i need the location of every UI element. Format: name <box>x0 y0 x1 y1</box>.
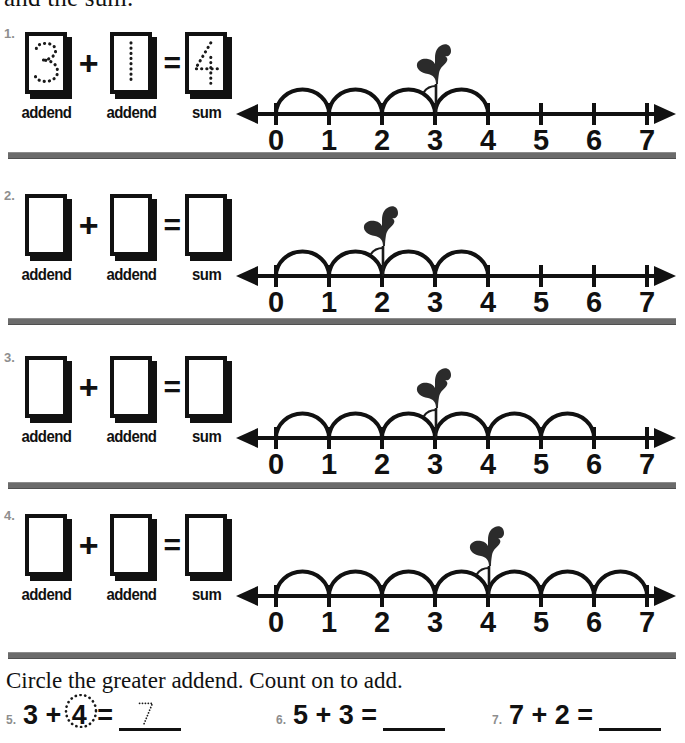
addend2-box[interactable] <box>110 514 152 576</box>
sum-cell: sum <box>185 514 227 605</box>
equals-sign: = <box>354 700 377 730</box>
sum-cell: sum <box>185 356 227 447</box>
hop-arc <box>382 414 435 438</box>
tick-label: 7 <box>639 448 655 480</box>
equals-sign: = <box>160 514 186 576</box>
hop-arc <box>435 572 488 596</box>
hop-arc <box>276 90 329 114</box>
problem-number: 2. <box>4 188 15 203</box>
tick-label: 2 <box>374 448 390 480</box>
sum-label: sum <box>192 265 221 285</box>
tick-label: 4 <box>480 286 496 318</box>
tick-label: 6 <box>586 286 602 318</box>
number-line-wrapper[interactable]: 01234567 <box>232 28 680 162</box>
sum-box[interactable] <box>185 32 227 94</box>
answer-blank[interactable] <box>383 709 445 731</box>
hop-arc <box>382 572 435 596</box>
number-line: 01234567 <box>232 510 680 640</box>
tick-label: 2 <box>374 606 390 638</box>
sum-cell: sum <box>185 194 227 285</box>
tick-label: 4 <box>480 448 496 480</box>
problem-number: 4. <box>4 508 15 523</box>
addend2-box[interactable] <box>110 356 152 418</box>
hop-arc <box>488 572 541 596</box>
addend2-label: addend <box>106 103 156 123</box>
left-addend: 5 <box>293 700 308 730</box>
number-line-wrapper[interactable]: 01234567 <box>232 352 680 486</box>
hop-arc <box>382 252 435 276</box>
addend1-label: addend <box>21 265 71 285</box>
equation-group: addend+addend=sum <box>18 32 227 123</box>
tick-label: 5 <box>533 448 549 480</box>
addend2-cell: addend <box>103 356 160 447</box>
addend1-cell: addend <box>18 194 75 285</box>
equation-group: addend+addend=sum <box>18 356 227 447</box>
expression: 5 + 3 = <box>293 700 445 731</box>
tick-label: 1 <box>321 448 337 480</box>
hop-arc <box>382 90 435 114</box>
addend1-cell: addend <box>18 32 75 123</box>
addend2-box[interactable] <box>110 194 152 256</box>
hop-arc <box>329 252 382 276</box>
problem-number: 1. <box>4 26 15 41</box>
tick-label: 4 <box>480 606 496 638</box>
addend1-box[interactable] <box>25 194 67 256</box>
tick-label: 3 <box>427 606 443 638</box>
number-line: 01234567 <box>232 352 680 482</box>
tick-label: 6 <box>586 606 602 638</box>
equals-sign: = <box>160 194 186 256</box>
section-divider <box>8 482 676 489</box>
tick-label: 1 <box>321 606 337 638</box>
axis-arrow-left <box>236 586 258 606</box>
addend1-box[interactable] <box>25 356 67 418</box>
answer-blank[interactable] <box>119 709 181 731</box>
sum-box[interactable] <box>185 194 227 256</box>
tick-label: 0 <box>268 286 284 318</box>
problem-row: 3.addend+addend=sum01234567 <box>0 348 685 500</box>
hop-arc <box>435 90 488 114</box>
axis-arrow-left <box>236 428 258 448</box>
axis-arrow-left <box>236 104 258 124</box>
bottom-problem: 5.3 + 4 = <box>6 700 181 731</box>
addend1-cell: addend <box>18 356 75 447</box>
addend1-box[interactable] <box>25 32 67 94</box>
addend1-label: addend <box>21 585 71 605</box>
sum-label: sum <box>192 103 221 123</box>
tick-label: 3 <box>427 286 443 318</box>
tick-label: 7 <box>639 606 655 638</box>
addend1-box[interactable] <box>25 514 67 576</box>
tick-label: 5 <box>533 606 549 638</box>
addend2-cell: addend <box>103 194 160 285</box>
number-line-wrapper[interactable]: 01234567 <box>232 190 680 324</box>
expression: 7 + 2 = <box>509 700 661 731</box>
problem-number: 5. <box>6 713 16 727</box>
answer-value <box>129 699 163 727</box>
worksheet-page: and the sum. 1.addend+addend=sum01234567… <box>0 0 685 743</box>
tick-label: 2 <box>374 286 390 318</box>
axis-arrow-left <box>236 266 258 286</box>
tick-label: 0 <box>268 448 284 480</box>
equals-sign: = <box>160 32 186 94</box>
plus-sign: + <box>75 514 103 576</box>
page-heading-continuation: and the sum. <box>4 0 133 12</box>
addend1-cell: addend <box>18 514 75 605</box>
sum-box[interactable] <box>185 514 227 576</box>
plus-sign: + <box>75 194 103 256</box>
right-addend-circled[interactable]: 4 <box>69 700 90 731</box>
axis-arrow-right <box>654 266 676 286</box>
answer-blank[interactable] <box>599 709 661 731</box>
right-addend: 3 <box>339 700 354 730</box>
sum-box[interactable] <box>185 356 227 418</box>
plus-sign: + <box>75 356 103 418</box>
hop-arc <box>276 572 329 596</box>
plus-sign: + <box>75 32 103 94</box>
tick-label: 1 <box>321 286 337 318</box>
axis-arrow-right <box>654 586 676 606</box>
addend2-box[interactable] <box>110 32 152 94</box>
problem-number: 3. <box>4 350 15 365</box>
addend2-label: addend <box>106 585 156 605</box>
number-line-wrapper[interactable]: 01234567 <box>232 510 680 644</box>
addend2-label: addend <box>106 427 156 447</box>
hop-arc <box>276 252 329 276</box>
problem-row: 2.addend+addend=sum01234567 <box>0 186 685 338</box>
